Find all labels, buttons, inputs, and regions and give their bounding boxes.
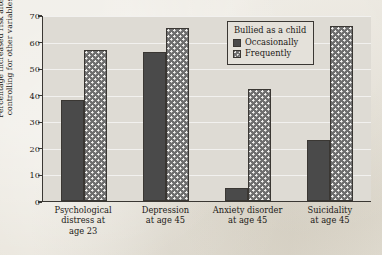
legend-swatch-occasionally [233, 39, 241, 47]
bar-frequently [166, 28, 189, 201]
y-axis-tick-mark [38, 201, 42, 202]
plot-frame: 010203040506070 Bullied as a child Occas… [42, 16, 371, 202]
y-axis-tick-mark [38, 95, 42, 96]
y-axis-tick-mark [38, 122, 42, 123]
x-axis-label-line: Suicidality [289, 205, 371, 215]
y-axis-tick-mark [38, 42, 42, 43]
x-axis-label: Psychologicaldistress atage 23 [42, 205, 124, 236]
x-axis-label-line: Psychological [42, 205, 124, 215]
y-axis-tick-mark [38, 15, 42, 16]
bar-groups [43, 16, 371, 201]
y-axis-tick-mark [38, 175, 42, 176]
bar-frequently [248, 89, 271, 201]
y-axis-tick-mark [38, 69, 42, 70]
bar-chart-figure: Percentage increased risk after controll… [0, 0, 382, 255]
plot-area [42, 16, 371, 202]
legend-item-frequently: Frequently [233, 48, 306, 59]
legend-swatch-frequently [233, 50, 241, 58]
x-axis-label-line: at age 45 [124, 215, 206, 225]
x-axis-label: Suicidalityat age 45 [289, 205, 371, 236]
x-axis-label: Anxiety disorderat age 45 [207, 205, 289, 236]
x-axis-label-line: distress at [42, 215, 124, 225]
bar-frequently [84, 50, 107, 201]
y-axis-title-line-2: controlling for other variables [5, 0, 14, 145]
x-axis-labels: Psychologicaldistress atage 23Depression… [42, 205, 371, 236]
x-axis-label-line: age 23 [42, 226, 124, 236]
y-axis-title: Percentage increased risk after controll… [0, 0, 14, 145]
legend-title: Bullied as a child [233, 25, 306, 36]
x-axis-label-line: at age 45 [289, 215, 371, 225]
bar-frequently [330, 26, 353, 201]
legend-label-frequently: Frequently [245, 48, 291, 59]
legend-label-occasionally: Occasionally [245, 37, 298, 48]
legend-item-occasionally: Occasionally [233, 37, 306, 48]
y-axis-tick-mark [38, 148, 42, 149]
bar-occasionally [307, 140, 330, 201]
x-axis-label-line: at age 45 [207, 215, 289, 225]
bar-occasionally [225, 188, 248, 201]
bar-group [143, 16, 189, 201]
bar-occasionally [61, 100, 84, 201]
bar-occasionally [143, 52, 166, 201]
bar-group [61, 16, 107, 201]
x-axis-label: Depressionat age 45 [124, 205, 206, 236]
x-axis-label-line: Depression [124, 205, 206, 215]
chart-legend: Bullied as a child Occasionally Frequent… [227, 21, 314, 65]
x-axis-label-line: Anxiety disorder [207, 205, 289, 215]
